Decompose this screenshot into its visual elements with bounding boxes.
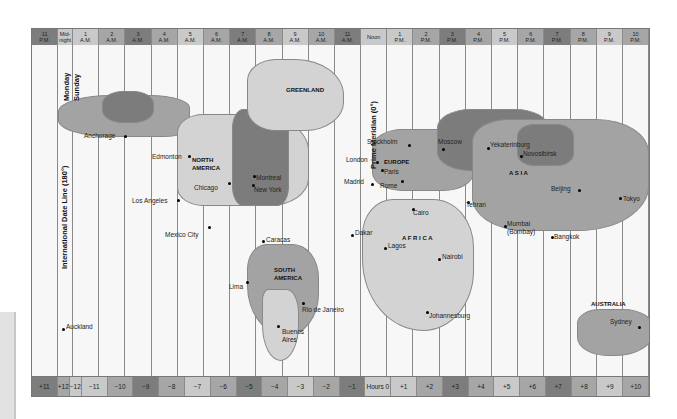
meridiem-label: P.M. bbox=[571, 37, 596, 43]
hour-header-cell: 10A.M. bbox=[309, 29, 335, 45]
region-north-america-1: NORTH bbox=[192, 157, 213, 163]
city-dot bbox=[277, 325, 280, 328]
city-novosibirsk: Novosibirsk bbox=[523, 150, 557, 157]
city-bangkok: Bangkok bbox=[554, 233, 579, 240]
meridiem-label: A.M. bbox=[230, 37, 255, 43]
prime-meridian-label: Prime Meridian (0°) bbox=[369, 101, 378, 169]
time-zone-column bbox=[204, 45, 230, 377]
hour-header-cell: 2P.M. bbox=[413, 29, 439, 45]
utc-offset-cell: +5 bbox=[494, 377, 520, 396]
city-dot bbox=[302, 302, 305, 305]
hour-header-cell: 6A.M. bbox=[204, 29, 230, 45]
meridiem-label: A.M. bbox=[178, 37, 203, 43]
monday-label: Monday bbox=[62, 73, 71, 101]
utc-offset-cell: −4 bbox=[262, 377, 288, 396]
sunday-label: Sunday bbox=[72, 74, 81, 101]
meridiem-label: night bbox=[58, 37, 72, 43]
hour-header-cell: 1P.M. bbox=[387, 29, 413, 45]
region-south-america-2: AMERICA bbox=[274, 275, 302, 281]
australia-landmass bbox=[577, 309, 650, 356]
utc-offset-cell: −2 bbox=[314, 377, 340, 396]
alaska-zone bbox=[102, 91, 154, 123]
city-chicago: Chicago bbox=[194, 184, 218, 191]
city-dot bbox=[208, 226, 211, 229]
city-mumbai-2: (Bombay) bbox=[507, 228, 535, 235]
meridiem-label: A.M. bbox=[73, 37, 98, 43]
city-lagos: Lagos bbox=[388, 242, 406, 249]
hour-header-cell: 9P.M. bbox=[597, 29, 623, 45]
hour-header-cell: 9A.M. bbox=[283, 29, 309, 45]
city-dot bbox=[177, 199, 180, 202]
utc-offset-cell: +7 bbox=[546, 377, 572, 396]
city-dot bbox=[376, 161, 379, 164]
city-dot bbox=[228, 182, 231, 185]
city-madrid: Madrid bbox=[344, 178, 364, 185]
city-dot bbox=[384, 247, 387, 250]
time-zone-column bbox=[32, 45, 58, 377]
hour-header-cell: 10P.M. bbox=[623, 29, 649, 45]
utc-offset-cell: +8 bbox=[572, 377, 598, 396]
meridiem-label: A.M. bbox=[152, 37, 177, 43]
utc-offset-cell: +6 bbox=[520, 377, 546, 396]
city-tokyo: Tokyo bbox=[623, 195, 640, 202]
meridiem-label: P.M. bbox=[440, 37, 465, 43]
city-lima: Lima bbox=[229, 283, 243, 290]
utc-offset-cell: −7 bbox=[185, 377, 211, 396]
city-anchorage: Anchorage bbox=[84, 132, 115, 139]
meridiem-label: A.M. bbox=[256, 37, 281, 43]
utc-offset-cell: Hours 0 bbox=[365, 377, 391, 396]
city-tehran: Tehran bbox=[466, 201, 486, 208]
meridiem-label: P.M. bbox=[387, 37, 412, 43]
southern-cone bbox=[262, 289, 299, 361]
city-dot bbox=[442, 148, 445, 151]
utc-offset-cell: +1 bbox=[391, 377, 417, 396]
hour-header-cell: 8A.M. bbox=[256, 29, 282, 45]
meridiem-label: A.M. bbox=[309, 37, 334, 43]
world-time-zone-map: 11P.M.Mid-night1A.M.2A.M.3A.M.4A.M.5A.M.… bbox=[31, 28, 650, 397]
city-dot bbox=[619, 197, 622, 200]
city-buenos-aires-2: Aires bbox=[282, 336, 297, 343]
city-dot bbox=[408, 144, 411, 147]
greenland-landmass bbox=[247, 59, 344, 131]
utc-offset-cell: +10 bbox=[623, 377, 649, 396]
city-stockholm: Stockholm bbox=[367, 138, 397, 145]
hour-header-cell: 3A.M. bbox=[125, 29, 151, 45]
hour-header-cell: 8P.M. bbox=[571, 29, 597, 45]
utc-offset-cell: +2 bbox=[417, 377, 443, 396]
city-sydney: Sydney bbox=[610, 318, 632, 325]
hour-header-cell: 3P.M. bbox=[440, 29, 466, 45]
side-tab bbox=[0, 312, 16, 419]
utc-offset-cell: +9 bbox=[597, 377, 623, 396]
meridiem-label: P.M. bbox=[466, 37, 491, 43]
meridiem-label: A.M. bbox=[283, 37, 308, 43]
meridiem-label: A.M. bbox=[99, 37, 124, 43]
city-los-angeles: Los Angeles bbox=[132, 197, 167, 204]
city-edmonton: Edmonton bbox=[152, 153, 182, 160]
utc-offset-cell: +4 bbox=[469, 377, 495, 396]
meridiem-label: P.M. bbox=[544, 37, 569, 43]
city-buenos-aires-1: Buenos bbox=[282, 328, 304, 335]
meridiem-label: P.M. bbox=[413, 37, 438, 43]
city-yekaterinburg: Yekaterinburg bbox=[490, 141, 530, 148]
hour-header-cell: Mid-night bbox=[58, 29, 73, 45]
hour-header-cell: 7A.M. bbox=[230, 29, 256, 45]
city-new-york: New York bbox=[254, 186, 281, 193]
city-rio: Rio de Janeiro bbox=[302, 306, 344, 313]
city-dot bbox=[62, 328, 65, 331]
hour-header-cell: 1A.M. bbox=[73, 29, 99, 45]
city-dot bbox=[188, 155, 191, 158]
utc-offset-cell: −11 bbox=[82, 377, 108, 396]
hour-header-cell: Noon bbox=[361, 29, 387, 45]
hour-header-cell: 11P.M. bbox=[32, 29, 58, 45]
city-mexico-city: Mexico City bbox=[165, 231, 199, 238]
city-moscow: Moscow bbox=[438, 138, 462, 145]
hour-header-cell: 5P.M. bbox=[492, 29, 518, 45]
meridiem-label: P.M. bbox=[518, 37, 543, 43]
region-south-america-1: SOUTH bbox=[274, 267, 295, 273]
city-dot bbox=[351, 234, 354, 237]
city-cairo: Cairo bbox=[413, 209, 429, 216]
utc-offset-cell: −10 bbox=[108, 377, 134, 396]
region-africa: A F R I C A bbox=[402, 235, 433, 241]
meridiem-label: P.M. bbox=[623, 37, 648, 43]
city-auckland: Auckland bbox=[66, 323, 93, 330]
